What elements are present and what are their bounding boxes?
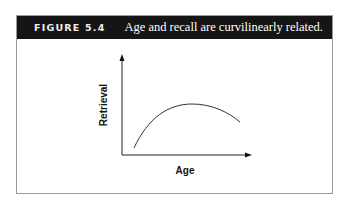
y-axis-label: Retrieval	[98, 84, 109, 126]
y-axis	[120, 54, 125, 155]
x-axis-label: Age	[176, 165, 195, 176]
y-axis-arrow-icon	[120, 54, 125, 61]
chart: Retrieval Age	[0, 0, 350, 209]
retrieval-curve	[134, 104, 240, 148]
x-axis	[122, 153, 252, 158]
x-axis-arrow-icon	[245, 153, 252, 158]
